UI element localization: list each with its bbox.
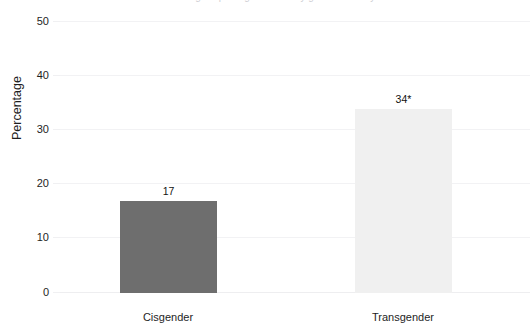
- y-tick-label-50: 50: [37, 15, 49, 27]
- tick-stub-0: [53, 292, 60, 293]
- tick-stub-20: [53, 183, 60, 184]
- y-tick-label-10: 10: [37, 231, 49, 243]
- y-tick-label-0: 0: [43, 286, 49, 298]
- x-tick-label-transgender: Transgender: [372, 311, 434, 323]
- tick-stub-40: [53, 75, 60, 76]
- tick-stub-30: [53, 129, 60, 130]
- y-axis-title: Percentage: [8, 120, 22, 140]
- bar-value-label-transgender: 34*: [396, 93, 412, 105]
- plot-area: 50 40 30 20 10 0 17 34*: [60, 12, 530, 293]
- y-tick-label-20: 20: [37, 177, 49, 189]
- y-tick-label-40: 40: [37, 69, 49, 81]
- y-tick-label-30: 30: [37, 123, 49, 135]
- bar-cisgender[interactable]: 17: [120, 13, 217, 293]
- bar-transgender[interactable]: 34*: [355, 13, 452, 293]
- tick-stub-50: [53, 21, 60, 22]
- chart-title-clipped: Percentage reporting outcome by gender i…: [0, 0, 530, 2]
- tick-stub-10: [53, 237, 60, 238]
- bar-value-label-cisgender: 17: [163, 185, 175, 197]
- bar-rect-transgender[interactable]: [355, 109, 452, 293]
- bar-chart: Percentage reporting outcome by gender i…: [0, 0, 530, 325]
- y-axis-title-label: Percentage: [10, 120, 24, 140]
- x-tick-label-cisgender: Cisgender: [143, 311, 193, 323]
- bar-rect-cisgender[interactable]: [120, 201, 217, 293]
